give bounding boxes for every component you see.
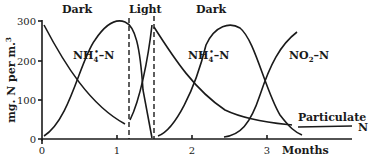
- y-axis-label: mg. N per m.3: [4, 37, 18, 123]
- y-tick-100: 100: [17, 95, 36, 106]
- label-particulate: Particulate: [298, 111, 366, 124]
- label-no2: NO2–N: [289, 49, 329, 64]
- curve-particulate-dark-2: [154, 27, 292, 125]
- curve-nh4-dark-2: [158, 25, 302, 136]
- y-tick-0: 0: [30, 134, 36, 145]
- period-label-dark-2: Dark: [196, 3, 226, 16]
- nitrogen-cycle-chart: 300 200 100 0 0 1 2 3 Months mg. N per m…: [0, 0, 370, 163]
- x-tick-1: 1: [114, 145, 120, 156]
- y-ticks: 300 200 100 0: [17, 16, 42, 145]
- label-nh4-2: NH4•–N: [188, 47, 229, 64]
- curve-nh4-dark-1: [44, 21, 152, 138]
- period-label-dark-1: Dark: [62, 3, 92, 16]
- x-axis-label: Months: [282, 144, 329, 157]
- y-tick-200: 200: [17, 56, 36, 67]
- x-tick-2: 2: [189, 145, 195, 156]
- x-tick-3: 3: [264, 145, 270, 156]
- curve-particulate-dark-1: [44, 25, 125, 124]
- label-particulate-n: N: [358, 121, 368, 134]
- curve-particulate-tail: [298, 126, 352, 127]
- period-label-light: Light: [129, 3, 163, 16]
- label-nh4-1: NH4•–N: [73, 47, 114, 64]
- y-tick-300: 300: [17, 16, 36, 27]
- x-tick-0: 0: [39, 145, 45, 156]
